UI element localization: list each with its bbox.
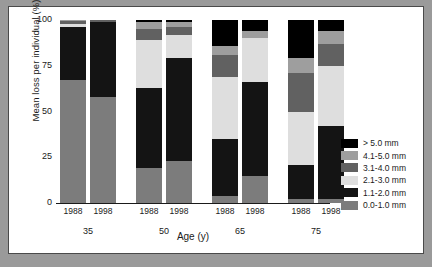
bar-segment[interactable]: [318, 20, 344, 31]
bar-segment[interactable]: [318, 44, 344, 66]
bar-segment[interactable]: [288, 73, 314, 111]
bar-segment[interactable]: [60, 21, 86, 24]
stacked-bar[interactable]: [212, 20, 238, 203]
x-tick-label-year: 1998: [159, 206, 199, 216]
legend-item[interactable]: 3.1-4.0 mm: [341, 162, 421, 174]
plot-area: [56, 20, 330, 203]
legend-label: 2.1-3.0 mm: [363, 175, 406, 185]
figure-panel: Mean loss per individual (%) 0255075100 …: [8, 6, 424, 254]
bar-segment[interactable]: [242, 20, 268, 31]
bar-segment[interactable]: [242, 82, 268, 175]
y-tick-label: 75: [28, 60, 52, 70]
x-axis-title: Age (y): [56, 231, 330, 242]
stacked-bar[interactable]: [166, 20, 192, 203]
bar-segment[interactable]: [90, 97, 116, 203]
stacked-bar[interactable]: [136, 20, 162, 203]
bar-segment[interactable]: [212, 139, 238, 196]
legend-label: 3.1-4.0 mm: [363, 163, 406, 173]
legend-label: 1.1-2.0 mm: [363, 188, 406, 198]
stacked-bar[interactable]: [90, 20, 116, 203]
bar-group: [60, 20, 116, 203]
stacked-bar[interactable]: [60, 20, 86, 203]
bar-segment[interactable]: [212, 46, 238, 55]
bar-segment[interactable]: [166, 35, 192, 59]
bar-segment[interactable]: [212, 77, 238, 139]
bar-segment[interactable]: [90, 22, 116, 97]
legend-swatch: [341, 176, 358, 185]
bar-segment[interactable]: [166, 20, 192, 22]
bar-segment[interactable]: [60, 20, 86, 21]
y-tick-label: 50: [28, 106, 52, 116]
bar-segment[interactable]: [288, 112, 314, 165]
bar-segment[interactable]: [242, 38, 268, 82]
y-tick-label: 25: [28, 151, 52, 161]
legend-swatch: [341, 151, 358, 160]
bar-segment[interactable]: [136, 22, 162, 29]
bar-segment[interactable]: [136, 20, 162, 22]
legend-item[interactable]: 4.1-5.0 mm: [341, 149, 421, 161]
bar-group: [212, 20, 268, 203]
legend-swatch: [341, 163, 358, 172]
bar-segment[interactable]: [136, 88, 162, 169]
legend-item[interactable]: > 5.0 mm: [341, 137, 421, 149]
bar-group: [288, 20, 344, 203]
bar-segment[interactable]: [166, 27, 192, 34]
bar-segment[interactable]: [136, 40, 162, 88]
bar-segment[interactable]: [90, 20, 116, 22]
bar-segment[interactable]: [212, 196, 238, 203]
bar-segment[interactable]: [60, 24, 86, 28]
legend-item[interactable]: 2.1-3.0 mm: [341, 174, 421, 186]
bar-segment[interactable]: [60, 80, 86, 203]
legend-item[interactable]: 0.0-1.0 mm: [341, 199, 421, 211]
bar-segment[interactable]: [242, 176, 268, 203]
legend-swatch: [341, 139, 358, 148]
stacked-bar[interactable]: [242, 20, 268, 203]
bar-segment[interactable]: [288, 20, 314, 58]
bar-segment[interactable]: [166, 22, 192, 27]
y-tick-label: 100: [28, 14, 52, 24]
x-axis-line: [56, 203, 330, 204]
bar-segment[interactable]: [136, 29, 162, 40]
bar-segment[interactable]: [166, 161, 192, 203]
bar-segment[interactable]: [318, 66, 344, 126]
bar-segment[interactable]: [242, 31, 268, 38]
bar-segment[interactable]: [288, 165, 314, 200]
chart-legend: > 5.0 mm4.1-5.0 mm3.1-4.0 mm2.1-3.0 mm1.…: [341, 137, 421, 211]
legend-label: > 5.0 mm: [363, 138, 399, 148]
bar-segment[interactable]: [288, 58, 314, 73]
legend-swatch: [341, 188, 358, 197]
y-tick-label: 0: [28, 197, 52, 207]
bar-segment[interactable]: [212, 20, 238, 46]
x-tick-label-year: 1998: [235, 206, 275, 216]
legend-label: 4.1-5.0 mm: [363, 151, 406, 161]
legend-label: 0.0-1.0 mm: [363, 200, 406, 210]
bar-segment[interactable]: [136, 168, 162, 203]
stacked-bar[interactable]: [288, 20, 314, 203]
x-tick-label-year: 1998: [83, 206, 123, 216]
bar-group: [136, 20, 192, 203]
y-axis-ticks: 0255075100: [24, 20, 52, 203]
legend-item[interactable]: 1.1-2.0 mm: [341, 187, 421, 199]
bar-segment[interactable]: [166, 58, 192, 160]
bar-segment[interactable]: [318, 31, 344, 44]
bar-segment[interactable]: [212, 55, 238, 77]
bar-segment[interactable]: [60, 27, 86, 80]
legend-swatch: [341, 201, 358, 210]
